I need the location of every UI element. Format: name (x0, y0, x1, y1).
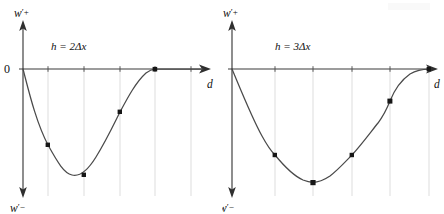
y-axis-bottom-label-right: w′− (222, 202, 234, 214)
x-axis-right (228, 65, 438, 74)
x-axis-label-right: d (434, 78, 440, 90)
gridlines-left (48, 70, 191, 196)
y-axis-top-label-left: w′+ (14, 7, 29, 19)
plot-right: w′+ w′− 0 d h = 3Δx (222, 0, 444, 214)
x-axis-label-left: d (207, 78, 213, 90)
y-axis-right (228, 20, 236, 198)
data-markers-left (46, 67, 158, 177)
annotation-right: h = 3Δx (275, 40, 310, 52)
y-axis-bottom-label-left: w′− (10, 202, 25, 214)
plot-left: w′+ w′− 0 d h = 2Δx (0, 0, 222, 214)
y-axis-left (19, 20, 27, 198)
curve-left (23, 69, 203, 175)
y-axis-top-label-right: w′+ (223, 7, 238, 19)
origin-label-left: 0 (4, 62, 10, 76)
dispersion-error-figure: w′+ w′− 0 d h = 2Δx (0, 0, 444, 214)
annotation-left: h = 2Δx (51, 40, 86, 52)
curve-right (232, 69, 430, 182)
panel-left-h2dx: w′+ w′− 0 d h = 2Δx (0, 0, 222, 214)
panel-right-h3dx: w′+ w′− 0 d h = 3Δx (222, 0, 444, 214)
